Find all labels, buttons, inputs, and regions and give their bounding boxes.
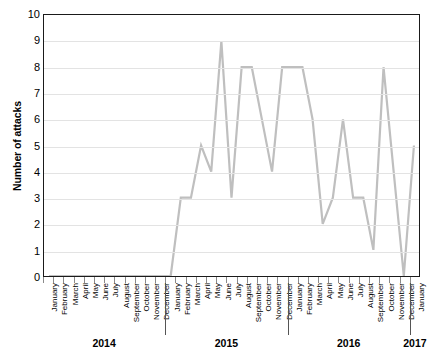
gridline (44, 41, 419, 42)
gridline (44, 94, 419, 95)
y-tick-label: 0 (16, 272, 40, 283)
x-axis-year-labels: 2014201520162017 (43, 337, 420, 353)
y-tick-label: 3 (16, 193, 40, 204)
gridline (44, 120, 419, 121)
year-label: 2015 (215, 337, 238, 349)
plot-area (43, 14, 420, 277)
y-tick-label: 1 (16, 245, 40, 256)
y-tick-label: 4 (16, 166, 40, 177)
y-tick-label: 9 (16, 35, 40, 46)
year-separator (165, 283, 166, 335)
year-label: 2014 (92, 337, 115, 349)
y-axis-tick-labels: 109876543210 (16, 8, 40, 284)
year-separator (288, 283, 289, 335)
attacks-series-line (44, 15, 419, 276)
year-label: 2016 (337, 337, 360, 349)
gridline (44, 147, 419, 148)
year-separators (43, 283, 420, 335)
year-label: 2017 (403, 337, 426, 349)
attacks-line-chart: Number of attacks 109876543210 JanuaryFe… (0, 0, 430, 360)
y-tick-label: 5 (16, 140, 40, 151)
gridline (44, 199, 419, 200)
gridline (44, 252, 419, 253)
y-tick-label: 8 (16, 61, 40, 72)
y-tick-label: 6 (16, 114, 40, 125)
y-tick-label: 2 (16, 219, 40, 230)
gridline (44, 225, 419, 226)
gridline (44, 68, 419, 69)
y-tick-label: 10 (16, 9, 40, 20)
year-separator (410, 283, 411, 335)
gridline (44, 173, 419, 174)
y-tick-label: 7 (16, 87, 40, 98)
